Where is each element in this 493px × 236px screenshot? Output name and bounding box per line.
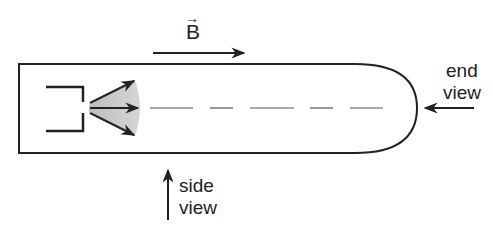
field-label: → B — [186, 21, 200, 43]
field-vector-mark: → — [185, 7, 199, 29]
side-view-label: side view — [179, 175, 217, 219]
crt-diagram — [0, 0, 493, 236]
end-view-label: end view — [443, 60, 481, 104]
electron-gun — [46, 87, 83, 131]
